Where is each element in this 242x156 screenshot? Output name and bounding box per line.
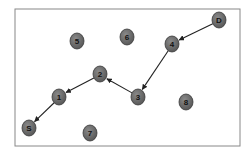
nodes-layer: D4562138S7: [22, 12, 226, 141]
node-label: 6: [125, 33, 130, 42]
edge-3-to-2: [107, 79, 132, 93]
node-7[interactable]: 7: [83, 125, 97, 141]
node-label: S: [26, 124, 32, 133]
edge-1-to-S: [35, 103, 55, 122]
node-6[interactable]: 6: [120, 29, 134, 45]
edge-D-to-4: [179, 24, 213, 40]
node-label: 8: [184, 98, 189, 107]
graph-canvas: D4562138S7: [0, 0, 242, 156]
node-4[interactable]: 4: [165, 36, 179, 52]
node-label: D: [216, 16, 222, 25]
node-3[interactable]: 3: [131, 89, 145, 105]
node-label: 3: [136, 93, 141, 102]
edge-2-to-1: [66, 78, 94, 93]
node-8[interactable]: 8: [179, 94, 193, 110]
node-label: 4: [170, 40, 175, 49]
node-label: 1: [57, 93, 62, 102]
node-5a[interactable]: 5: [70, 33, 84, 49]
node-label: 5: [75, 37, 80, 46]
node-1[interactable]: 1: [52, 89, 66, 105]
node-D[interactable]: D: [212, 12, 226, 28]
node-label: 2: [98, 70, 103, 79]
node-S[interactable]: S: [22, 120, 36, 136]
edge-4-to-3: [142, 51, 168, 90]
node-label: 7: [88, 129, 93, 138]
node-2[interactable]: 2: [93, 66, 107, 82]
